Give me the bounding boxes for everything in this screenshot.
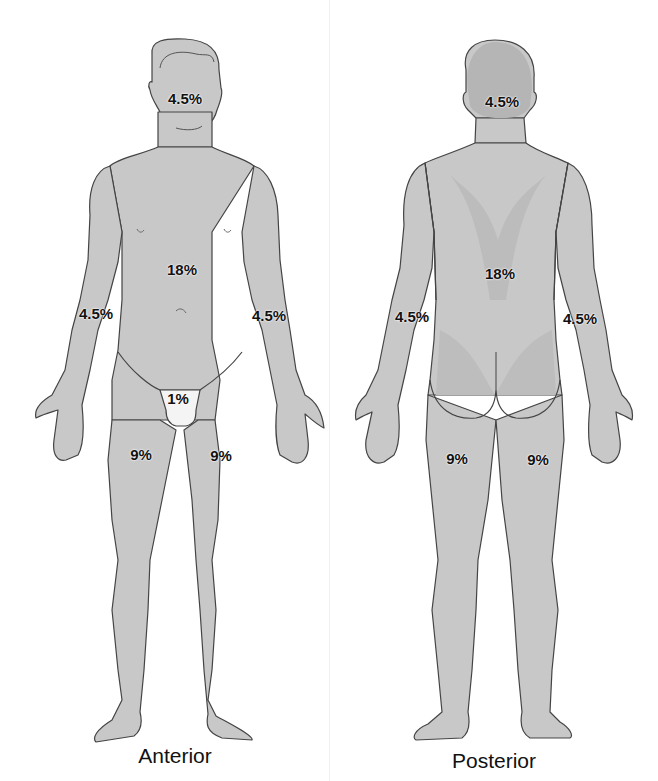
posterior-head-percent: 4.5% — [485, 93, 519, 110]
anterior-right-leg-percent: 9% — [130, 446, 152, 463]
anterior-right-arm-percent: 4.5% — [79, 305, 113, 322]
posterior-trunk-percent: 18% — [485, 265, 515, 282]
posterior-right-leg-percent: 9% — [527, 451, 549, 468]
anterior-figure: 4.5% 18% 4.5% 4.5% 1% 9% 9% Anterior — [0, 0, 330, 781]
anterior-left-leg-percent: 9% — [210, 447, 232, 464]
posterior-right-arm-percent: 4.5% — [563, 310, 597, 327]
anterior-body-silhouette — [0, 0, 330, 781]
anterior-left-arm-percent: 4.5% — [252, 307, 286, 324]
posterior-figure: 4.5% 18% 4.5% 4.5% 9% 9% Posterior — [330, 0, 658, 781]
posterior-left-leg-percent: 9% — [446, 450, 468, 467]
anterior-view-label: Anterior — [138, 744, 212, 768]
posterior-view-label: Posterior — [452, 749, 536, 773]
anterior-trunk-percent: 18% — [167, 261, 197, 278]
posterior-left-arm-percent: 4.5% — [395, 308, 429, 325]
anterior-perineum-percent: 1% — [167, 390, 189, 407]
posterior-body-silhouette — [330, 0, 658, 781]
anterior-head-percent: 4.5% — [168, 90, 202, 107]
